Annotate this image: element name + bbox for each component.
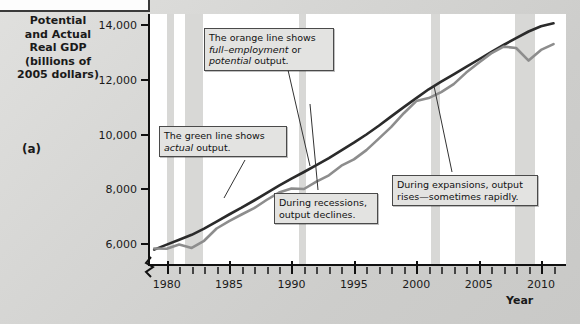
y-tick-label-10,000: 10,000 — [99, 128, 138, 141]
y-axis-break-icon — [142, 256, 158, 278]
y-tick-14,000 — [141, 24, 148, 26]
y-tick-12,000 — [141, 79, 148, 81]
page-corner-marker — [0, 0, 150, 12]
chart-axis-title: Potentialand ActualReal GDP(billions of2… — [6, 14, 110, 82]
x-tick-minor-1988 — [267, 267, 269, 274]
x-tick-minor-1997 — [379, 267, 381, 274]
x-tick-minor-1999 — [404, 267, 406, 274]
callout-green-line: The green line shows actual output. — [159, 126, 287, 157]
x-tick-label-1980: 1980 — [153, 278, 181, 291]
x-tick-label-1995: 1995 — [340, 278, 368, 291]
x-tick-minor-2002 — [441, 267, 443, 274]
x-tick-2000 — [416, 261, 418, 274]
y-tick-label-8,000: 8,000 — [106, 183, 138, 196]
x-tick-minor-1983 — [204, 267, 206, 274]
axis-title-line-1: Potential — [6, 14, 110, 28]
axis-title-line-2: and Actual — [6, 28, 110, 42]
x-tick-label-2010: 2010 — [527, 278, 555, 291]
callout-orange-em-2: potential — [209, 55, 251, 66]
callout-expansions: During expansions, output rises—sometime… — [392, 175, 538, 206]
callout-orange-em-1: full–employment — [209, 44, 288, 55]
x-tick-minor-2004 — [466, 267, 468, 274]
x-tick-1985 — [229, 261, 231, 274]
x-tick-label-2005: 2005 — [465, 278, 493, 291]
x-tick-minor-1991 — [304, 267, 306, 274]
x-tick-1995 — [354, 261, 356, 274]
y-tick-label-14,000: 14,000 — [99, 18, 138, 31]
callout-orange-line-1: The orange line shows — [209, 32, 329, 44]
callout-recessions-line-2: output declines. — [279, 209, 373, 221]
panel-label: (a) — [22, 142, 41, 156]
callout-green-line-2: actual output. — [164, 142, 282, 154]
callout-orange-line: The orange line shows full–employment or… — [204, 28, 334, 71]
y-tick-label-12,000: 12,000 — [99, 73, 138, 86]
x-axis-label: Year — [506, 294, 533, 307]
callout-expansions-line-1: During expansions, output — [397, 179, 533, 191]
callout-orange-tail-2: output. — [251, 55, 288, 66]
x-tick-1990 — [291, 261, 293, 274]
callout-recessions: During recessions, output declines. — [274, 193, 378, 224]
x-tick-minor-1989 — [279, 267, 281, 274]
x-tick-minor-1984 — [217, 267, 219, 274]
callout-green-tail-1: output. — [193, 142, 230, 153]
x-tick-1980 — [167, 261, 169, 274]
x-tick-minor-2008 — [516, 267, 518, 274]
callout-orange-line-2: full–employment or — [209, 44, 329, 56]
x-tick-minor-1993 — [329, 267, 331, 274]
x-tick-minor-1987 — [254, 267, 256, 274]
callout-expansions-line-2: rises—sometimes rapidly. — [397, 191, 533, 203]
x-tick-label-2000: 2000 — [402, 278, 430, 291]
x-tick-minor-2003 — [454, 267, 456, 274]
x-tick-minor-1994 — [341, 267, 343, 274]
x-tick-minor-2007 — [504, 267, 506, 274]
x-tick-minor-2011 — [554, 267, 556, 274]
x-tick-minor-1998 — [391, 267, 393, 274]
callout-orange-line-3: potential output. — [209, 55, 329, 67]
x-tick-label-1990: 1990 — [277, 278, 305, 291]
callout-green-line-1: The green line shows — [164, 130, 282, 142]
callout-recessions-line-1: During recessions, — [279, 197, 373, 209]
axis-title-line-5: 2005 dollars) — [6, 68, 110, 82]
x-tick-minor-2009 — [529, 267, 531, 274]
callout-orange-tail-1: or — [288, 44, 301, 55]
x-tick-2005 — [479, 261, 481, 274]
x-tick-minor-2006 — [491, 267, 493, 274]
y-axis-line — [148, 14, 150, 266]
axis-title-line-4: (billions of — [6, 55, 110, 69]
y-tick-6,000 — [141, 243, 148, 245]
x-tick-minor-1996 — [366, 267, 368, 274]
x-tick-minor-2001 — [429, 267, 431, 274]
x-tick-minor-1981 — [179, 267, 181, 274]
y-tick-10,000 — [141, 134, 148, 136]
y-tick-label-6,000: 6,000 — [106, 238, 138, 251]
callout-green-em-1: actual — [164, 142, 193, 153]
x-tick-minor-1982 — [192, 267, 194, 274]
x-tick-minor-1986 — [242, 267, 244, 274]
x-tick-label-1985: 1985 — [215, 278, 243, 291]
x-tick-minor-1992 — [316, 267, 318, 274]
y-tick-8,000 — [141, 188, 148, 190]
x-axis-line — [148, 264, 566, 266]
axis-title-line-3: Real GDP — [6, 41, 110, 55]
x-tick-2010 — [541, 261, 543, 274]
